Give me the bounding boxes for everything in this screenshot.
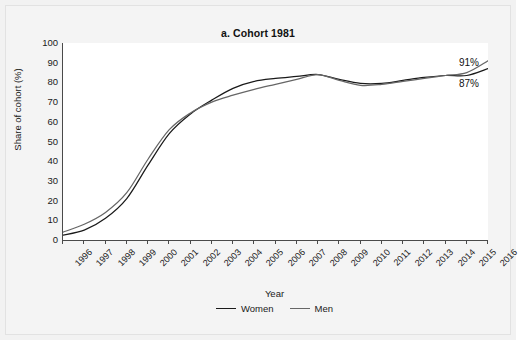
y-tick-label: 80: [30, 77, 58, 87]
legend-swatch-men: [290, 308, 310, 309]
x-tick-mark: [381, 240, 382, 244]
y-tick-label: 20: [30, 196, 58, 206]
end-label-women: 87%: [459, 78, 479, 89]
x-tick-mark: [296, 240, 297, 244]
x-tick-mark: [275, 240, 276, 244]
x-tick-label: 1996: [73, 247, 94, 268]
x-tick-mark: [62, 240, 63, 244]
x-tick-label: 2013: [434, 247, 455, 268]
chart-legend: WomenMen: [62, 303, 487, 314]
legend-item-men[interactable]: Men: [290, 303, 333, 314]
x-tick-label: 2012: [413, 247, 434, 268]
y-tick-label: 90: [30, 58, 58, 68]
x-tick-mark: [211, 240, 212, 244]
plot-area: [62, 43, 488, 241]
x-tick-mark: [338, 240, 339, 244]
y-tick-label: 60: [30, 117, 58, 127]
x-tick-label: 2004: [243, 247, 264, 268]
y-axis-title: Share of cohort (%): [12, 35, 23, 185]
x-tick-mark: [147, 240, 148, 244]
y-tick-label: 70: [30, 97, 58, 107]
plot-lines: [63, 43, 488, 240]
x-tick-mark: [360, 240, 361, 244]
x-tick-label: 2011: [391, 247, 412, 268]
x-tick-label: 2008: [328, 247, 349, 268]
x-tick-mark: [423, 240, 424, 244]
x-tick-label: 2006: [285, 247, 306, 268]
x-tick-mark: [487, 240, 488, 244]
x-tick-label: 2007: [307, 247, 328, 268]
x-tick-mark: [232, 240, 233, 244]
x-tick-mark: [190, 240, 191, 244]
x-tick-label: 2002: [200, 247, 221, 268]
x-tick-label: 1998: [115, 247, 136, 268]
legend-swatch-women: [216, 308, 236, 309]
x-tick-mark: [126, 240, 127, 244]
x-tick-mark: [168, 240, 169, 244]
y-tick-label: 0: [30, 235, 58, 245]
y-tick-label: 100: [30, 38, 58, 48]
x-tick-label: 2000: [158, 247, 179, 268]
x-tick-label: 1999: [137, 247, 158, 268]
y-tick-label: 50: [30, 137, 58, 147]
x-tick-label: 2003: [222, 247, 243, 268]
end-label-men: 91%: [459, 57, 479, 68]
x-tick-label: 2010: [370, 247, 391, 268]
x-axis-title: Year: [62, 288, 487, 299]
x-tick-mark: [466, 240, 467, 244]
x-tick-mark: [253, 240, 254, 244]
x-tick-mark: [445, 240, 446, 244]
x-tick-mark: [105, 240, 106, 244]
x-tick-mark: [317, 240, 318, 244]
x-tick-label: 2005: [264, 247, 285, 268]
x-tick-mark: [83, 240, 84, 244]
y-tick-label: 40: [30, 156, 58, 166]
legend-item-women[interactable]: Women: [216, 303, 274, 314]
legend-label: Women: [241, 303, 274, 314]
x-axis-ticks: 1996199719981999200020012002200320042005…: [62, 240, 487, 286]
x-tick-label: 2001: [179, 247, 200, 268]
series-line-men: [63, 61, 488, 232]
y-axis-ticks: 0102030405060708090100: [28, 43, 58, 240]
x-tick-mark: [402, 240, 403, 244]
legend-label: Men: [315, 303, 333, 314]
x-tick-label: 2009: [349, 247, 370, 268]
chart-title: a. Cohort 1981: [0, 27, 516, 39]
x-tick-label: 1997: [94, 247, 115, 268]
series-line-women: [63, 69, 488, 235]
y-tick-label: 30: [30, 176, 58, 186]
y-tick-label: 10: [30, 215, 58, 225]
x-tick-label: 2014: [455, 247, 476, 268]
